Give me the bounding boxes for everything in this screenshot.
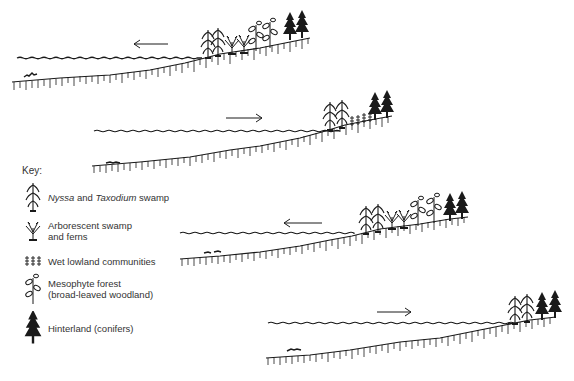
wet-lowland-icon [22, 254, 44, 268]
ground-profile [12, 38, 310, 82]
key-item-wet-lowland: Wet lowland communities [22, 254, 156, 268]
key-item-hinterland: Hinterland (conifers) [22, 311, 134, 345]
panel-4 [266, 290, 562, 365]
panel-3 [180, 191, 469, 266]
key-item-mesophyte: Mesophyte forest (broad-leaved woodland) [22, 273, 153, 305]
label-nyssa: Nyssa [48, 192, 74, 203]
debris [24, 73, 37, 77]
ground-hatch [14, 38, 308, 90]
key-title: Key: [22, 165, 42, 176]
key-item-nyssa-taxodium: Nyssa and Taxodium swamp [22, 181, 169, 213]
panel-1 [12, 10, 310, 90]
water-surface [17, 57, 202, 59]
arrow-right [226, 114, 262, 122]
debris [106, 162, 120, 163]
key-item-arborescent: Arborescent swamp and ferns [22, 220, 132, 242]
conifer-icon [22, 311, 44, 345]
panel-2 [92, 90, 394, 173]
water-surface [180, 232, 354, 234]
mesophyte-icon [22, 273, 44, 305]
nyssa-taxodium-icon [22, 181, 44, 213]
debris [287, 349, 301, 351]
label-taxodium: Taxodium [96, 192, 137, 203]
arrow-left [134, 40, 168, 48]
arrow-right [377, 308, 411, 316]
water-surface [94, 130, 340, 132]
debris [204, 251, 221, 253]
water-surface [268, 322, 514, 324]
arborescent-icon [22, 220, 44, 242]
arrow-left [284, 219, 322, 227]
ground-profile [180, 217, 468, 259]
